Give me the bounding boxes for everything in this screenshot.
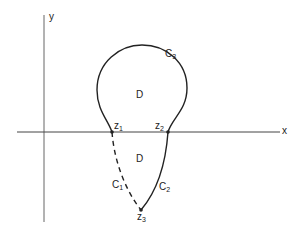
point-label-z3: z3	[137, 212, 146, 223]
point-label-z2: z2	[155, 121, 164, 132]
x-axis-label: x	[282, 126, 287, 136]
diagram-canvas: y x D D C3 C1 C2 z1 z2 z3	[0, 0, 290, 233]
point-z2	[166, 130, 170, 134]
y-axis-label: y	[49, 12, 54, 22]
curve-label-c3: C3	[165, 49, 176, 60]
curve-label-c2: C2	[159, 182, 170, 193]
region-d-upper: D	[136, 90, 143, 100]
curve-c1	[112, 132, 141, 210]
point-label-z1: z1	[114, 121, 123, 132]
diagram-svg	[0, 0, 290, 233]
curve-c2	[141, 132, 168, 210]
curve-label-c1: C1	[112, 180, 123, 191]
region-d-lower: D	[136, 154, 143, 164]
